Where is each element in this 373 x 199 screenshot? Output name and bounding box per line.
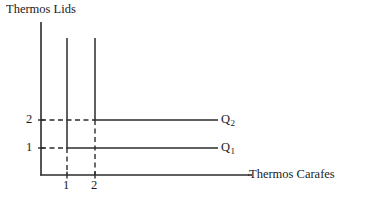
x-tick-label-1: 1 <box>63 179 69 192</box>
curve-label-q1: Q1 <box>221 141 235 154</box>
curve-label-q2-subscript: 2 <box>230 118 235 128</box>
x-axis-title: Thermos Carafes <box>249 168 335 181</box>
curve-label-q2: Q2 <box>221 113 235 126</box>
curve-label-q2-base: Q <box>221 112 230 126</box>
y-axis-title: Thermos Lids <box>6 3 76 16</box>
curve-label-q1-subscript: 1 <box>230 146 235 156</box>
x-tick-label-2: 2 <box>91 179 97 192</box>
y-tick-label-1: 1 <box>26 141 32 154</box>
isoquant-figure: Thermos Lids Thermos Carafes 2 1 1 2 Q2 … <box>0 0 373 199</box>
y-tick-label-2: 2 <box>26 113 32 126</box>
curve-label-q1-base: Q <box>221 140 230 154</box>
